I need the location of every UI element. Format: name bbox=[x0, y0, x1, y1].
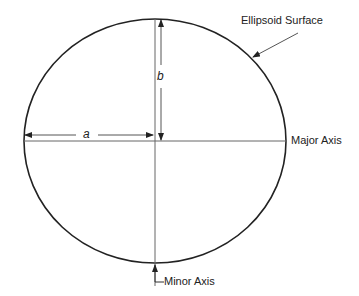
ellipsoid-surface-label: Ellipsoid Surface bbox=[241, 14, 323, 26]
minor-axis-label: Minor Axis bbox=[164, 275, 215, 287]
semi-major-label: a bbox=[83, 127, 90, 141]
surface-leader-arrow bbox=[253, 33, 298, 57]
major-axis-label: Major Axis bbox=[291, 134, 342, 146]
semi-minor-label: b bbox=[157, 69, 164, 83]
ellipsoid-diagram bbox=[0, 0, 359, 296]
